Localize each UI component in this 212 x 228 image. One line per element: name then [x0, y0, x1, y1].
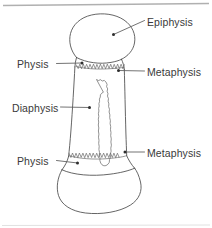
- label-physis-bottom: Physis: [17, 155, 49, 167]
- bone-outline: [57, 14, 141, 214]
- bone-diagram-figure: Epiphysis Physis Metaphysis Diaphysis Ph…: [0, 0, 212, 228]
- dot-epiphysis: [112, 33, 115, 36]
- label-metaphysis-bottom: Metaphysis: [147, 147, 201, 159]
- distal-right-flare: [127, 156, 135, 168]
- bottom-rule: [2, 225, 210, 226]
- label-metaphysis-top: Metaphysis: [147, 66, 201, 78]
- leader-epiphysis: [114, 21, 145, 35]
- distal-left-flare: [62, 157, 69, 170]
- proximal-physis-zigzag: [76, 64, 125, 69]
- distal-epiphysis-top: [62, 168, 135, 175]
- leader-dots: [76, 33, 127, 165]
- dot-metaphysis-bottom: [124, 151, 127, 154]
- label-diaphysis: Diaphysis: [12, 102, 58, 114]
- top-rule: [3, 4, 209, 6]
- medullary-cavity-outline: [97, 80, 112, 166]
- label-epiphysis: Epiphysis: [147, 16, 193, 28]
- dot-metaphysis-top: [117, 69, 120, 72]
- shaft-left-cortex: [69, 67, 75, 157]
- proximal-epiphysis-outline: [70, 14, 135, 59]
- leader-metaphysis-top: [119, 71, 145, 72]
- leader-diaphysis: [61, 107, 90, 108]
- dot-diaphysis: [88, 106, 91, 109]
- shaft-right-cortex: [124, 69, 126, 156]
- label-physis-top: Physis: [17, 58, 49, 70]
- dot-physis-bottom: [76, 162, 79, 165]
- leader-physis-top: [57, 63, 83, 64]
- distal-physis-zigzag: [69, 153, 127, 159]
- bone-diagram-canvas: [0, 0, 212, 228]
- dot-physis-top: [81, 62, 84, 65]
